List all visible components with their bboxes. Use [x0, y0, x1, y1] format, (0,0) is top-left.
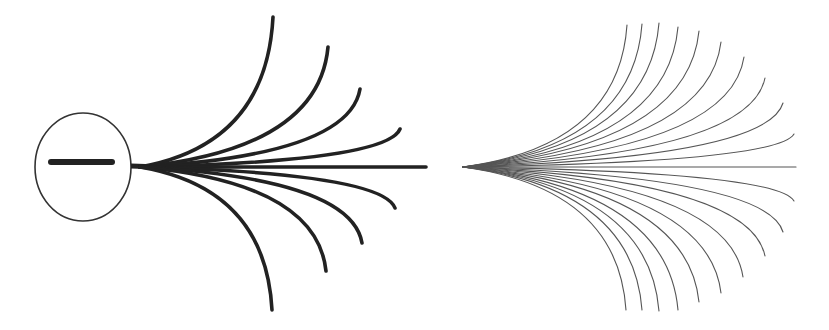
field-curve [140, 167, 326, 271]
fan-curve [463, 31, 699, 167]
fan-curve [463, 57, 744, 167]
right-figure-line-fan [463, 23, 796, 311]
left-figure-field-lines-from-dipole [35, 17, 426, 310]
fan-curve [463, 78, 765, 167]
enclosing-circle [35, 113, 131, 221]
fan-curve [463, 23, 659, 167]
fan-curve [463, 167, 699, 302]
field-curve [140, 47, 328, 167]
fan-curve [463, 167, 659, 311]
thick-curve-group [140, 17, 426, 310]
diagram-canvas [0, 0, 829, 330]
thin-curve-group [463, 23, 796, 311]
fan-curve [463, 27, 678, 167]
fan-curve [463, 167, 642, 310]
fan-curve [463, 24, 642, 167]
fan-curve [463, 167, 678, 310]
fan-curve [463, 167, 626, 310]
field-curve [140, 17, 273, 167]
fan-curve [463, 25, 627, 167]
